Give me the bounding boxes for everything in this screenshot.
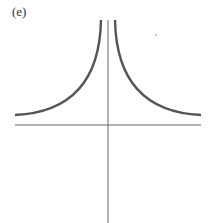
curve-right-branch — [115, 20, 201, 115]
function-graph — [0, 0, 217, 223]
curve-left-branch — [15, 20, 101, 115]
stray-dot — [155, 34, 157, 36]
